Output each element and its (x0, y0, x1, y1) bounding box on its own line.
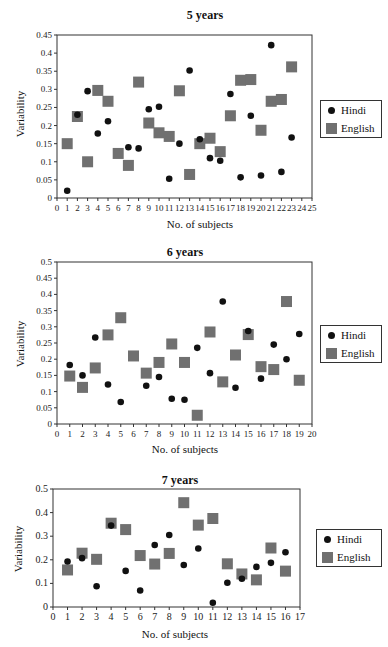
hindi-point (64, 558, 71, 565)
hindi-point (105, 381, 112, 388)
english-point (222, 558, 233, 569)
english-point (141, 368, 152, 379)
y-tick-label: 0 (48, 419, 53, 429)
hindi-point (92, 334, 99, 341)
hindi-point (186, 67, 193, 74)
english-point (133, 77, 144, 88)
x-tick-label: 3 (85, 203, 90, 213)
hindi-point (108, 522, 115, 529)
english-point (92, 85, 103, 96)
x-tick-label: 24 (297, 203, 307, 213)
plot-frame (53, 489, 300, 607)
x-tick-label: 21 (267, 203, 276, 213)
legend-item-hindi: Hindi (321, 326, 381, 344)
hindi-point (79, 555, 86, 562)
x-tick-label: 19 (295, 429, 305, 439)
english-point (281, 296, 292, 307)
x-axis-label: No. of subjects (140, 218, 260, 230)
x-tick-label: 11 (208, 611, 218, 622)
english-point (62, 138, 73, 149)
x-tick-label: 0 (51, 611, 56, 622)
y-tick-label: 0.35 (36, 66, 52, 76)
x-tick-label: 20 (257, 203, 267, 213)
english-point (64, 371, 75, 382)
x-tick-label: 3 (93, 429, 98, 439)
y-tick-label: 0.3 (36, 530, 49, 541)
hindi-point (195, 545, 202, 552)
english-point (184, 169, 195, 180)
x-tick-label: 4 (106, 429, 111, 439)
x-tick-label: 12 (206, 429, 215, 439)
hindi-point (232, 384, 239, 391)
hindi-point (84, 88, 91, 95)
english-point (205, 133, 216, 144)
legend-item-hindi: Hindi (317, 530, 381, 548)
y-tick-label: 0.35 (36, 306, 52, 316)
english-point (103, 329, 114, 340)
english-point (143, 118, 154, 129)
english-point (90, 362, 101, 373)
x-tick-label: 18 (236, 203, 246, 213)
x-tick-label: 6 (116, 203, 121, 213)
hindi-point (224, 579, 231, 586)
hindi-point (156, 103, 163, 110)
hindi-point (180, 562, 187, 569)
english-point (77, 548, 88, 559)
x-tick-label: 10 (193, 611, 203, 622)
english-point (294, 375, 305, 386)
legend-item-hindi: Hindi (321, 101, 381, 119)
legend: Hindi English (316, 529, 382, 567)
y-axis-label: Variability (14, 314, 26, 374)
hindi-point (270, 341, 277, 348)
english-point (256, 361, 267, 372)
x-tick-label: 9 (147, 203, 152, 213)
hindi-point (79, 372, 86, 379)
hindi-point (248, 112, 255, 119)
hindi-point (166, 176, 173, 183)
english-point (120, 524, 131, 535)
x-tick-label: 2 (75, 203, 80, 213)
x-tick-label: 17 (226, 203, 236, 213)
english-point (77, 382, 88, 393)
hindi-point (176, 140, 183, 147)
hindi-point (74, 111, 81, 118)
x-tick-label: 15 (244, 429, 254, 439)
x-tick-label: 5 (119, 429, 124, 439)
square-marker-icon (326, 348, 337, 359)
hindi-point (181, 396, 188, 403)
x-tick-label: 22 (277, 203, 286, 213)
x-tick-label: 19 (246, 203, 256, 213)
y-tick-label: 0.45 (36, 30, 52, 40)
x-tick-label: 13 (218, 429, 228, 439)
x-tick-label: 2 (80, 611, 85, 622)
hindi-point (219, 298, 226, 305)
x-axis-label: No. of subjects (115, 628, 235, 640)
english-point (266, 96, 277, 107)
chart-title: 7 years (125, 473, 235, 488)
english-point (82, 156, 93, 167)
x-tick-label: 8 (136, 203, 141, 213)
x-tick-label: 13 (237, 611, 247, 622)
y-tick-label: 0.4 (36, 507, 49, 518)
legend-item-english: English (321, 119, 381, 137)
hindi-point (125, 144, 132, 151)
hindi-point (258, 375, 265, 382)
english-point (164, 548, 175, 559)
y-tick-label: 0.5 (36, 483, 49, 494)
hindi-point (166, 532, 173, 539)
x-tick-label: 4 (109, 611, 114, 622)
y-tick-label: 0.45 (36, 273, 52, 283)
hindi-point (156, 374, 163, 381)
y-axis-label: Variability (12, 519, 24, 579)
hindi-point (105, 118, 112, 125)
hindi-point (268, 42, 275, 49)
hindi-point (268, 560, 275, 567)
english-point (135, 550, 146, 561)
english-point (62, 564, 73, 575)
x-tick-label: 17 (269, 429, 279, 439)
x-tick-label: 5 (123, 611, 128, 622)
x-tick-label: 23 (287, 203, 297, 213)
square-marker-icon (322, 552, 333, 563)
english-point (115, 312, 126, 323)
x-tick-label: 10 (180, 429, 190, 439)
